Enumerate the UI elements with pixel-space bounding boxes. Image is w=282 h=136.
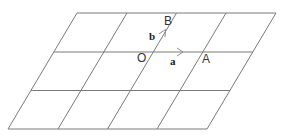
vector-label-a: a [170, 55, 176, 67]
point-label-o: O [137, 51, 146, 65]
grid-slanted-line [58, 13, 127, 129]
vector-label-b: b [149, 30, 155, 42]
point-label-b: B [164, 14, 172, 28]
grid-slanted-line [207, 13, 276, 129]
grid-slanted-line [8, 13, 77, 129]
grid-slanted-line [108, 13, 177, 129]
parallelogram-grid-diagram: B b O a A [0, 0, 282, 136]
point-label-a: A [202, 52, 210, 66]
grid-lines [8, 13, 276, 129]
grid-slanted-line [157, 13, 226, 129]
